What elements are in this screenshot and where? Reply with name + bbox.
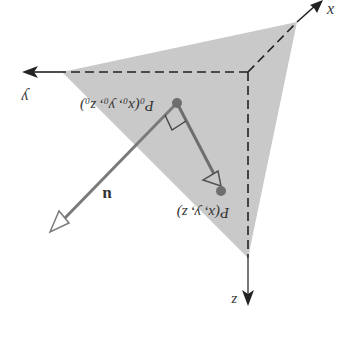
plane-line-diagram: x y z u P₀(x₀, y₀, z₀) P(x, y, z) [0, 0, 348, 346]
point-p-label: P(x, y, z) [177, 204, 230, 221]
z-axis-label: z [231, 293, 238, 309]
y-axis-label: y [21, 88, 31, 106]
x-axis-label: x [326, 0, 334, 17]
vector-u-arrowhead-icon [50, 211, 69, 232]
x-axis-solid [297, 5, 316, 22]
point-p [216, 186, 226, 196]
vector-u-label: u [102, 186, 111, 205]
x-axis-arrowhead-icon [310, 0, 323, 13]
point-p0 [172, 98, 182, 108]
point-p0-label: P₀(x₀, y₀, z₀) [80, 97, 155, 114]
